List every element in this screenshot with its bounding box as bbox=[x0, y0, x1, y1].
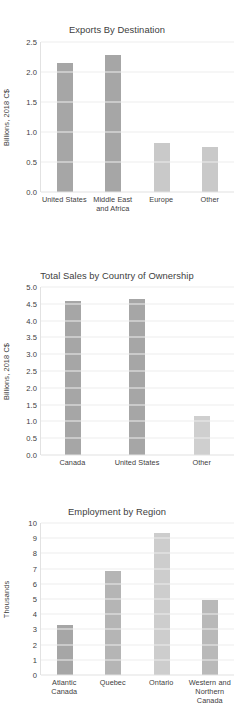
y-tick-label: 6 bbox=[33, 579, 37, 588]
y-tick-label: 1.0 bbox=[26, 128, 37, 137]
gridline bbox=[41, 72, 234, 73]
gridline bbox=[41, 303, 234, 304]
y-tick-label: 2 bbox=[33, 640, 37, 649]
bar-slot bbox=[89, 42, 137, 192]
x-tick-label: Other bbox=[169, 455, 234, 467]
y-tick-label: 10 bbox=[28, 519, 37, 528]
y-axis-label-text: Billions, 2018 C$ bbox=[3, 342, 12, 399]
y-tick-label: 3.5 bbox=[26, 333, 37, 342]
gridline bbox=[41, 371, 234, 372]
y-tick-label: 7 bbox=[33, 564, 37, 573]
gridline bbox=[41, 568, 234, 569]
gridline bbox=[41, 42, 234, 43]
charts-page: Exports By Destination Billions, 2018 C$… bbox=[0, 22, 234, 708]
y-tick-label: 9 bbox=[33, 534, 37, 543]
x-tick-label: Quebec bbox=[89, 675, 138, 706]
gridline bbox=[41, 320, 234, 321]
x-tick-label: Ontario bbox=[137, 675, 186, 706]
bar[interactable] bbox=[202, 147, 218, 192]
y-axis-label: Billions, 2018 C$ bbox=[0, 287, 14, 455]
chart-employment-by-region: Employment by Region Thousands 012345678… bbox=[0, 504, 234, 708]
y-tick-label: 8 bbox=[33, 549, 37, 558]
plot-area bbox=[40, 42, 234, 192]
x-tick-label: Other bbox=[186, 192, 235, 213]
y-tick-label: 5.0 bbox=[26, 283, 37, 292]
bar-series bbox=[41, 42, 234, 192]
gridline bbox=[41, 614, 234, 615]
bar[interactable] bbox=[154, 533, 170, 675]
y-tick-label: 2.5 bbox=[26, 38, 37, 47]
gridline bbox=[41, 102, 234, 103]
y-axis-label-text: Thousands bbox=[3, 580, 12, 617]
y-axis-label: Thousands bbox=[0, 523, 14, 675]
x-axis-labels: Atlantic CanadaQuebecOntarioWestern and … bbox=[0, 675, 234, 706]
y-tick-label: 1.5 bbox=[26, 400, 37, 409]
y-tick-label: 0.0 bbox=[26, 451, 37, 460]
bar[interactable] bbox=[105, 55, 121, 192]
gridline bbox=[41, 644, 234, 645]
y-tick-label: 1.5 bbox=[26, 98, 37, 107]
chart-total-sales-by-country-of-ownership: Total Sales by Country of Ownership Bill… bbox=[0, 268, 234, 496]
gridline bbox=[41, 421, 234, 422]
gridline bbox=[41, 629, 234, 630]
gridline bbox=[41, 404, 234, 405]
y-axis-ticks: 012345678910 bbox=[14, 523, 40, 675]
gridline bbox=[41, 553, 234, 554]
y-tick-label: 0.0 bbox=[26, 188, 37, 197]
y-axis-label-text: Billions, 2018 C$ bbox=[3, 88, 12, 145]
y-axis-ticks: 0.00.51.01.52.02.5 bbox=[14, 42, 40, 192]
gridline bbox=[41, 538, 234, 539]
bar-slot bbox=[186, 42, 234, 192]
bar[interactable] bbox=[154, 143, 170, 192]
y-tick-label: 2.5 bbox=[26, 367, 37, 376]
gridline bbox=[41, 455, 234, 456]
y-tick-label: 0.5 bbox=[26, 158, 37, 167]
x-tick-label: United States bbox=[40, 192, 89, 213]
gridline bbox=[41, 132, 234, 133]
bar-slot bbox=[138, 42, 186, 192]
y-tick-label: 5 bbox=[33, 595, 37, 604]
bar[interactable] bbox=[57, 625, 73, 675]
gridline bbox=[41, 675, 234, 676]
y-tick-label: 4.5 bbox=[26, 299, 37, 308]
gridline bbox=[41, 287, 234, 288]
y-axis-label: Billions, 2018 C$ bbox=[0, 42, 14, 192]
y-tick-label: 3 bbox=[33, 625, 37, 634]
gridline bbox=[41, 583, 234, 584]
bar[interactable] bbox=[129, 299, 145, 455]
y-tick-label: 3.0 bbox=[26, 350, 37, 359]
y-tick-label: 0 bbox=[33, 671, 37, 680]
bar[interactable] bbox=[65, 301, 81, 455]
bar[interactable] bbox=[202, 600, 218, 675]
chart-title: Exports By Destination bbox=[0, 22, 234, 36]
gridline bbox=[41, 523, 234, 524]
chart-title: Total Sales by Country of Ownership bbox=[0, 268, 234, 282]
x-tick-label: Middle East and Africa bbox=[89, 192, 138, 213]
gridline bbox=[41, 387, 234, 388]
gridline bbox=[41, 438, 234, 439]
y-tick-label: 1 bbox=[33, 655, 37, 664]
plot-area bbox=[40, 523, 234, 675]
bar-slot bbox=[41, 42, 89, 192]
y-tick-label: 4 bbox=[33, 610, 37, 619]
x-tick-label: Western and Northern Canada bbox=[186, 675, 235, 706]
y-axis-ticks: 0.00.51.01.52.02.53.03.54.04.55.0 bbox=[14, 287, 40, 455]
plot-area bbox=[40, 287, 234, 455]
x-tick-label: United States bbox=[105, 455, 170, 467]
gridline bbox=[41, 192, 234, 193]
x-tick-label: Europe bbox=[137, 192, 186, 213]
gridline bbox=[41, 162, 234, 163]
chart-exports-by-destination: Exports By Destination Billions, 2018 C$… bbox=[0, 22, 234, 262]
bar[interactable] bbox=[57, 63, 73, 192]
gridline bbox=[41, 659, 234, 660]
gridline bbox=[41, 337, 234, 338]
y-tick-label: 2.0 bbox=[26, 383, 37, 392]
y-tick-label: 4.0 bbox=[26, 316, 37, 325]
x-tick-label: Canada bbox=[40, 455, 105, 467]
x-tick-label: Atlantic Canada bbox=[40, 675, 89, 706]
y-tick-label: 0.5 bbox=[26, 434, 37, 443]
gridline bbox=[41, 599, 234, 600]
gridline bbox=[41, 354, 234, 355]
y-tick-label: 1.0 bbox=[26, 417, 37, 426]
chart-title: Employment by Region bbox=[0, 504, 234, 518]
